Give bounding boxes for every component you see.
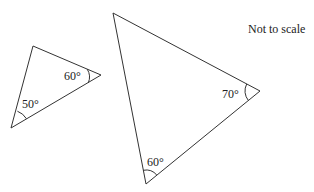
angle-label-large-60: 60°	[147, 155, 164, 169]
angle-arc-small-right	[87, 69, 89, 83]
angle-label-large-70: 70°	[222, 87, 239, 101]
angle-arc-large-right	[245, 84, 248, 101]
angle-label-small-50: 50°	[22, 97, 39, 111]
angle-arc-large-bottom	[143, 170, 157, 175]
angle-arc-small-bottom	[17, 111, 26, 119]
angle-label-small-60: 60°	[64, 69, 81, 83]
small-triangle: 60° 50°	[11, 46, 101, 128]
large-triangle: 70° 60°	[113, 13, 260, 184]
not-to-scale-note: Not to scale	[248, 22, 305, 37]
